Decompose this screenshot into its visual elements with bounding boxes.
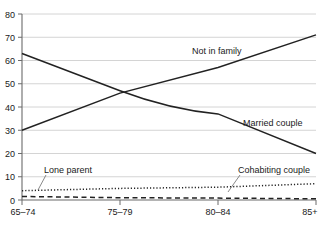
y-tick-marks [18,14,22,200]
leader-line-cohabiting-couple [228,175,240,192]
y-tick-label-30: 30 [5,126,15,136]
y-tick-label-50: 50 [5,79,15,89]
gridlines [22,14,316,177]
y-tick-label-20: 20 [5,149,15,159]
series-line-married-couple [22,54,316,154]
x-tick-label-80-84: 80–84 [205,207,230,217]
y-tick-label-10: 10 [5,172,15,182]
series-label-cohabiting-couple: Cohabiting couple [238,165,310,175]
x-tick-label-65-74: 65–74 [10,207,35,217]
leader-line-lone-parent [38,175,46,190]
y-tick-label-80: 80 [5,10,15,20]
y-tick-label-70: 70 [5,33,15,43]
series-line-lone-parent [22,197,316,199]
y-tick-label-0: 0 [10,196,15,206]
x-tick-marks [22,200,316,205]
line-chart: 80 70 60 50 40 30 20 10 0 65–74 75–79 80… [0,0,325,231]
series-label-lone-parent: Lone parent [44,165,93,175]
y-tick-label-40: 40 [5,103,15,113]
series-label-not-in-family: Not in family [192,46,242,56]
y-tick-label-60: 60 [5,56,15,66]
series-label-married-couple: Married couple [243,118,303,128]
series-line-not-in-family [22,35,316,130]
chart-container: 80 70 60 50 40 30 20 10 0 65–74 75–79 80… [0,0,325,231]
y-axis-labels: 80 70 60 50 40 30 20 10 0 [5,10,15,206]
series-line-cohabiting-couple [22,184,316,191]
x-axis-labels: 65–74 75–79 80–84 85+ [10,207,317,217]
x-tick-label-75-79: 75–79 [107,207,132,217]
x-tick-label-85plus: 85+ [302,207,317,217]
